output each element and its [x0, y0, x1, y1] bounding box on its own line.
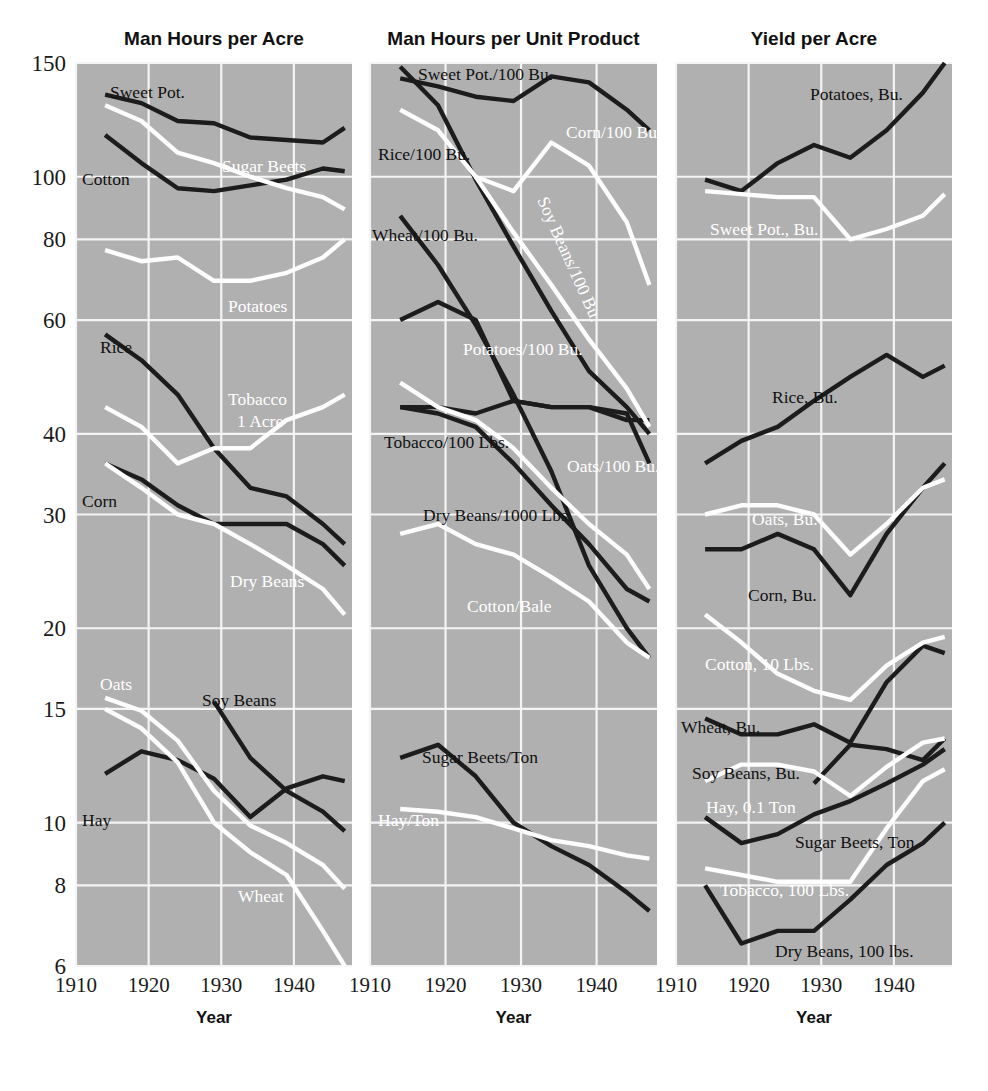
series-label: Potatoes, Bu.: [810, 84, 903, 104]
series-label: Oats/100 Bu.: [567, 456, 659, 476]
series-label: Potatoes: [228, 296, 287, 316]
x-axis-tick-label: 1920: [425, 973, 467, 997]
series-label: Sweet Pot./100 Bu.: [418, 64, 553, 84]
series-label: Oats, Bu.: [752, 509, 818, 529]
series-label: Cotton, 10 Lbs.: [705, 654, 814, 674]
series-label: Cotton/Bale: [467, 596, 552, 616]
series-label: Corn, Bu.: [748, 585, 817, 605]
y-axis-tick-label: 10: [43, 811, 66, 836]
y-axis: 1501008060403020151086: [32, 51, 67, 979]
y-axis-tick-label: 8: [55, 873, 67, 898]
series-label: Corn/100 Bu.: [566, 122, 661, 142]
series-label: 1 Acre: [237, 411, 283, 431]
series-label: Wheat, Bu.: [681, 717, 760, 737]
x-axis-title: Year: [196, 1008, 232, 1027]
x-axis-tick-label: 1930: [500, 973, 542, 997]
y-axis-tick-label: 60: [43, 308, 66, 333]
series-label: Dry Beans: [230, 571, 305, 591]
series-label: Cotton: [82, 169, 130, 189]
series-label: Dry Beans, 100 lbs.: [775, 941, 914, 961]
series-label: Rice/100 Bu.: [378, 144, 470, 164]
y-axis-tick-label: 15: [43, 697, 66, 722]
x-axis-tick-label: 1920: [728, 973, 770, 997]
series-label: Rice, Bu.: [772, 387, 838, 407]
y-axis-tick-label: 100: [32, 165, 67, 190]
panel-title: Man Hours per Acre: [124, 28, 304, 49]
series-label: Hay/Ton: [378, 810, 439, 830]
x-axis-title: Year: [796, 1008, 832, 1027]
panel-title: Man Hours per Unit Product: [387, 28, 640, 49]
x-axis-tick-label: 1940: [873, 973, 915, 997]
panel-man-hours-per-unit-product: Man Hours per Unit Product19101920193019…: [349, 28, 657, 1027]
series-label: Tobacco, 100 Lbs.: [720, 880, 849, 900]
series-label: Rice: [100, 337, 132, 357]
y-axis-tick-label: 20: [43, 616, 66, 641]
series-label: Sweet Pot., Bu.: [710, 219, 818, 239]
series-label: Wheat: [238, 886, 284, 906]
series-label: Hay: [82, 810, 111, 830]
y-axis-tick-label: 30: [43, 503, 66, 528]
x-axis-tick-label: 1910: [655, 973, 697, 997]
series-label: Hay, 0.1 Ton: [706, 797, 796, 817]
series-label: Sugar Beets/Ton: [422, 747, 538, 767]
series-label: Soy Beans, Bu.: [692, 763, 800, 783]
series-label: Sweet Pot.: [110, 82, 185, 102]
series-label: Corn: [82, 491, 117, 511]
x-axis-tick-label: 1930: [800, 973, 842, 997]
x-axis-tick-label: 1940: [576, 973, 618, 997]
series-label: Tobacco: [228, 389, 287, 409]
series-label: Sugar Beets: [222, 156, 306, 176]
y-axis-tick-label: 150: [32, 51, 67, 76]
series-label: Soy Beans: [202, 690, 277, 710]
three-panel-line-chart: Man Hours per Acre1910192019301940YearMa…: [0, 0, 988, 1091]
x-axis-tick-label: 1910: [349, 973, 391, 997]
panel-title: Yield per Acre: [751, 28, 877, 49]
x-axis-tick-label: 1940: [273, 973, 315, 997]
series-label: Dry Beans/1000 Lbs.: [423, 505, 572, 525]
x-axis-title: Year: [496, 1008, 532, 1027]
series-label: Wheat/100 Bu.: [372, 225, 478, 245]
agricultural-productivity-figure: Man Hours per Acre1910192019301940YearMa…: [0, 0, 988, 1091]
series-label: Tobacco/100 Lbs.: [384, 432, 509, 452]
y-axis-tick-label: 6: [55, 954, 67, 979]
series-label: Sugar Beets, Ton: [795, 832, 915, 852]
series-label: Potatoes/100 Bu.: [463, 339, 583, 359]
series-label: Oats: [100, 674, 132, 694]
x-axis-tick-label: 1930: [200, 973, 242, 997]
y-axis-tick-label: 40: [43, 422, 66, 447]
y-axis-tick-label: 80: [43, 227, 66, 252]
x-axis-tick-label: 1920: [128, 973, 170, 997]
